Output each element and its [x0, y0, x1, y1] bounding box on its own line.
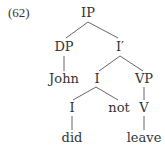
node-ip: IP — [81, 6, 95, 20]
edge-i-i — [73, 87, 96, 100]
node-i-mid: I — [94, 72, 99, 86]
syntax-tree-diagram: (62) IP DP I′ John I VP I not V did leav… — [0, 0, 165, 148]
node-i-low: I — [69, 101, 74, 115]
node-dp: DP — [54, 40, 73, 54]
node-vp: VP — [135, 72, 153, 86]
node-john: John — [49, 72, 79, 86]
example-number: (62) — [8, 6, 30, 20]
node-did: did — [62, 131, 83, 145]
node-leave: leave — [127, 131, 162, 145]
edge-ip-dp — [66, 22, 88, 38]
edge-ibar-i — [99, 56, 120, 71]
edge-ibar-vp — [120, 56, 143, 71]
edge-i-not — [96, 87, 118, 100]
node-not: not — [108, 101, 129, 115]
edge-ip-ibar — [88, 22, 118, 38]
node-v: V — [139, 101, 148, 115]
node-ibar: I′ — [116, 40, 124, 54]
